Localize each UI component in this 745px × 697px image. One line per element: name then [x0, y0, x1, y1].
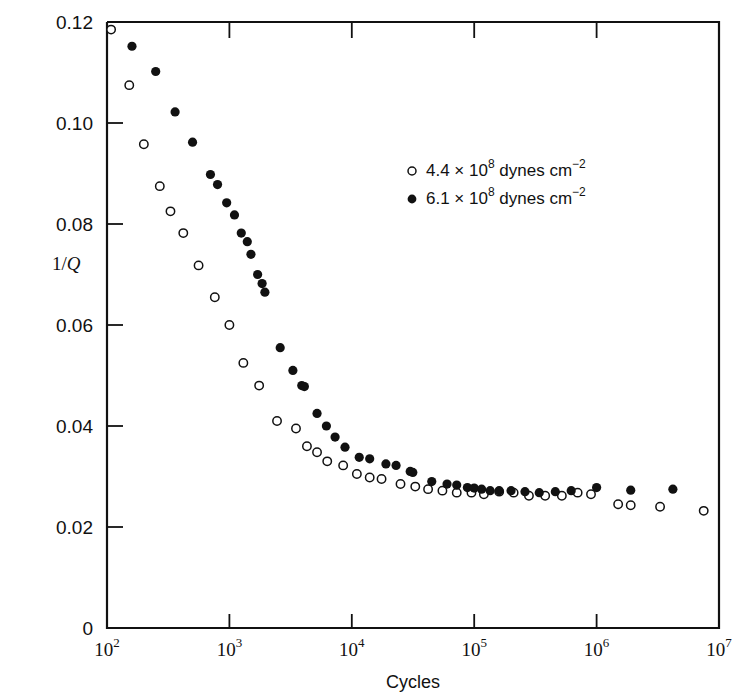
x-axis-tick-labels: 102103104105106107	[94, 635, 732, 660]
data-point	[330, 433, 339, 442]
x-tick-label: 106	[584, 635, 610, 660]
data-point	[253, 270, 262, 279]
data-point	[453, 488, 461, 496]
legend-item: 6.1 × 108 dynes cm−2	[408, 185, 587, 208]
data-point	[151, 67, 160, 76]
data-point	[260, 288, 269, 297]
data-point	[442, 479, 451, 488]
plot-axes	[107, 22, 719, 628]
data-point	[300, 382, 309, 391]
internal-friction-vs-cycles-figure: 00.020.040.060.080.100.12 10210310410510…	[0, 0, 745, 697]
data-point	[273, 417, 281, 425]
data-point	[391, 461, 400, 470]
x-axis-title: Cycles	[386, 672, 440, 692]
data-point	[626, 486, 635, 495]
data-point	[237, 228, 246, 237]
data-point	[365, 473, 373, 481]
scatter-plot-canvas: 00.020.040.060.080.100.12 10210310410510…	[0, 0, 745, 697]
data-point	[495, 486, 504, 495]
y-tick-label: 0.12	[56, 12, 93, 33]
data-point	[127, 42, 136, 51]
data-point	[258, 279, 267, 288]
svg-text:107: 107	[706, 635, 732, 660]
data-point	[211, 293, 219, 301]
data-point	[353, 470, 361, 478]
series-open	[107, 25, 708, 515]
legend-item: 4.4 × 108 dynes cm−2	[408, 157, 586, 180]
series-filled	[127, 42, 677, 498]
data-point	[340, 443, 349, 452]
y-tick-label: 0.06	[56, 315, 93, 336]
data-point	[322, 421, 331, 430]
data-point	[355, 453, 364, 462]
data-point	[567, 486, 576, 495]
data-point	[381, 459, 390, 468]
data-point	[107, 25, 115, 33]
legend-label: 6.1 × 108 dynes cm−2	[426, 185, 586, 208]
svg-text:102: 102	[94, 635, 120, 660]
y-axis-tick-labels: 00.020.040.060.080.100.12	[56, 12, 93, 639]
data-point	[365, 454, 374, 463]
x-tick-label: 104	[339, 635, 365, 660]
data-point	[239, 359, 247, 367]
y-tick-label: 0.02	[56, 517, 93, 538]
data-point	[225, 321, 233, 329]
data-point	[303, 442, 311, 450]
data-point	[292, 424, 300, 432]
x-tick-label: 107	[706, 635, 732, 660]
data-point	[627, 501, 635, 509]
data-point	[125, 81, 133, 89]
data-point	[194, 261, 202, 269]
data-point	[700, 507, 708, 515]
data-point	[312, 409, 321, 418]
axis-ticks	[107, 22, 597, 628]
svg-text:106: 106	[584, 635, 610, 660]
data-point	[276, 343, 285, 352]
svg-text:105: 105	[461, 635, 487, 660]
data-point	[170, 107, 179, 116]
data-point	[222, 198, 231, 207]
data-point	[377, 475, 385, 483]
legend-marker	[408, 167, 416, 175]
data-point	[411, 482, 419, 490]
x-tick-label: 102	[94, 635, 120, 660]
data-point	[668, 485, 677, 494]
data-point	[535, 488, 544, 497]
chart-legend: 4.4 × 108 dynes cm−26.1 × 108 dynes cm−2	[408, 157, 587, 208]
data-point	[396, 480, 404, 488]
y-tick-label: 0	[82, 618, 93, 639]
data-point	[255, 381, 263, 389]
data-point	[288, 366, 297, 375]
svg-text:103: 103	[217, 635, 243, 660]
x-tick-label: 105	[461, 635, 487, 660]
data-point	[213, 180, 222, 189]
data-point	[246, 250, 255, 259]
data-point	[477, 485, 486, 494]
data-point	[188, 138, 197, 147]
data-series-group	[107, 25, 708, 515]
data-point	[166, 207, 174, 215]
data-point	[230, 210, 239, 219]
data-point	[506, 486, 515, 495]
data-point	[424, 485, 432, 493]
axis-frame	[107, 22, 719, 628]
data-point	[427, 477, 436, 486]
data-point	[323, 457, 331, 465]
data-point	[656, 503, 664, 511]
data-point	[206, 170, 215, 179]
data-point	[551, 487, 560, 496]
data-point	[179, 229, 187, 237]
data-point	[520, 487, 529, 496]
y-tick-label: 0.08	[56, 214, 93, 235]
legend-label: 4.4 × 108 dynes cm−2	[426, 157, 586, 180]
y-tick-label: 0.04	[56, 416, 93, 437]
data-point	[452, 480, 461, 489]
data-point	[592, 483, 601, 492]
data-point	[156, 182, 164, 190]
y-tick-label: 0.10	[56, 113, 93, 134]
data-point	[140, 140, 148, 148]
legend-marker	[408, 195, 417, 204]
x-tick-label: 103	[217, 635, 243, 660]
data-point	[243, 237, 252, 246]
data-point	[486, 486, 495, 495]
